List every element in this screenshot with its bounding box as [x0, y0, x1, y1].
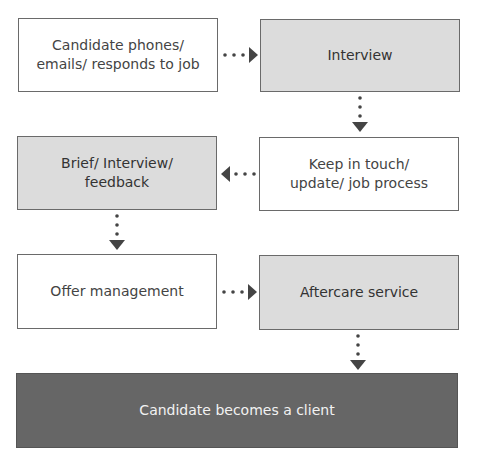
node-keep-in-touch: Keep in touch/ update/ job process — [259, 137, 459, 211]
arrow-down-icon — [347, 332, 369, 372]
node-label-line2: feedback — [61, 173, 173, 192]
node-offer-management: Offer management — [17, 254, 217, 329]
arrow-left-icon — [219, 163, 259, 185]
node-label: Offer management — [50, 282, 183, 301]
node-candidate-becomes-client: Candidate becomes a client — [16, 373, 458, 448]
node-aftercare-service: Aftercare service — [259, 255, 459, 330]
node-label-line1: Candidate phones/ — [36, 36, 199, 55]
node-label: Interview — [327, 46, 392, 65]
arrow-down-icon — [106, 212, 128, 252]
arrow-down-icon — [349, 94, 371, 136]
node-label-line2: update/ job process — [290, 174, 428, 193]
arrow-right-icon — [219, 281, 259, 303]
node-label-line2: emails/ responds to job — [36, 55, 199, 74]
arrow-right-icon — [220, 44, 260, 66]
node-label-line1: Keep in touch/ — [290, 155, 428, 174]
node-interview: Interview — [260, 19, 460, 92]
node-label-line1: Brief/ Interview/ — [61, 154, 173, 173]
node-brief-interview-feedback: Brief/ Interview/ feedback — [17, 136, 217, 210]
node-label: Candidate becomes a client — [139, 401, 334, 420]
node-label: Aftercare service — [300, 283, 418, 302]
node-candidate-responds: Candidate phones/ emails/ responds to jo… — [18, 18, 218, 92]
